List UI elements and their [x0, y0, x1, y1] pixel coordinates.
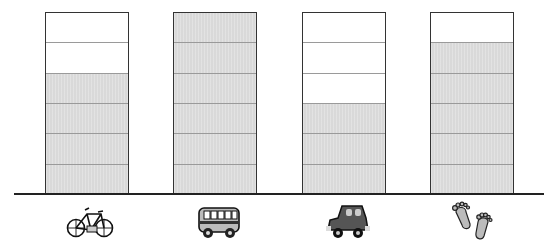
unit-cell [303, 103, 385, 133]
column-bus [173, 12, 257, 194]
unit-cell [431, 133, 513, 163]
unit-cell [303, 13, 385, 42]
unit-cell [174, 73, 256, 103]
unit-cell [46, 42, 128, 72]
unit-cell [174, 103, 256, 133]
footprints-icon [448, 200, 498, 242]
unit-cell [174, 42, 256, 72]
unit-cell [174, 133, 256, 163]
unit-cell [431, 73, 513, 103]
car-icon [322, 200, 372, 242]
unit-cell [431, 164, 513, 194]
unit-cell [46, 73, 128, 103]
column-bike [45, 12, 129, 194]
unit-cell [46, 133, 128, 163]
unit-cell [174, 13, 256, 42]
unit-cell [46, 164, 128, 194]
unit-cell [303, 133, 385, 163]
column-car [302, 12, 386, 194]
unit-cell [303, 164, 385, 194]
unit-cell [46, 103, 128, 133]
unit-cell [303, 42, 385, 72]
unit-cell [431, 103, 513, 133]
unit-cell [174, 164, 256, 194]
unit-cell [46, 13, 128, 42]
unit-cell [431, 42, 513, 72]
bus-icon [193, 200, 243, 242]
x-axis-baseline [14, 193, 544, 195]
bicycle-icon [65, 200, 115, 242]
unit-cell [303, 73, 385, 103]
column-walk [430, 12, 514, 194]
unit-cell [431, 13, 513, 42]
